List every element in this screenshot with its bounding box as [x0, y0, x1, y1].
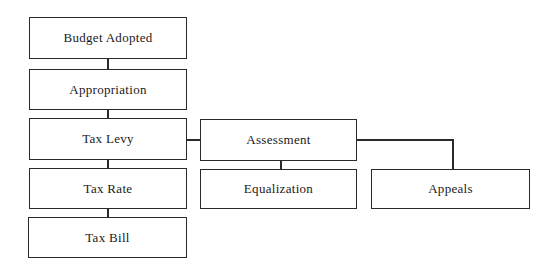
node-equalization: Equalization [200, 169, 357, 209]
node-label: Appropriation [69, 82, 147, 98]
node-appeals: Appeals [371, 169, 530, 209]
node-label: Assessment [246, 132, 310, 148]
node-label: Equalization [244, 181, 313, 197]
node-label: Appeals [428, 181, 473, 197]
connector-rate-bill [107, 209, 109, 217]
connector-appropriation-levy [107, 110, 109, 118]
connector-assessment-appeals-v [452, 139, 454, 169]
node-tax-levy: Tax Levy [29, 118, 187, 160]
node-label: Tax Levy [82, 131, 134, 147]
node-label: Tax Rate [84, 181, 133, 197]
connector-budget-appropriation [107, 59, 109, 69]
connector-assessment-appeals-h [357, 139, 453, 141]
connector-assessment-equalization [280, 161, 282, 169]
node-budget-adopted: Budget Adopted [29, 17, 187, 59]
node-tax-bill: Tax Bill [28, 217, 187, 258]
connector-levy-assessment [187, 139, 200, 141]
node-label: Tax Bill [85, 230, 129, 246]
node-assessment: Assessment [200, 119, 357, 161]
connector-levy-rate [107, 160, 109, 168]
node-tax-rate: Tax Rate [29, 168, 187, 209]
node-appropriation: Appropriation [29, 69, 187, 110]
node-label: Budget Adopted [63, 30, 152, 46]
